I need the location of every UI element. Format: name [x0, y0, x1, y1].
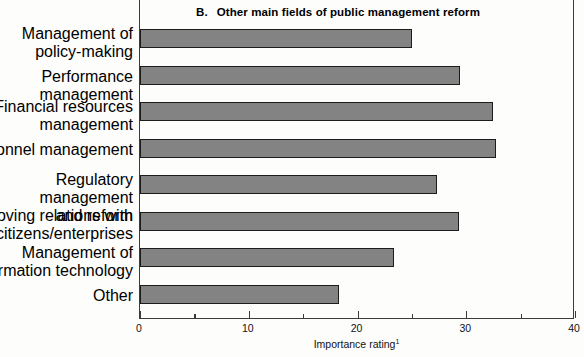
category-label-line: Management of	[0, 244, 133, 262]
bar[interactable]	[140, 285, 339, 304]
category-label-line: Other	[0, 287, 133, 305]
category-label-line: management	[0, 116, 133, 134]
x-tick-minor	[303, 314, 304, 318]
category-label-line: citizens/enterprises	[0, 225, 133, 243]
category-label-line: Management of	[0, 25, 133, 43]
category-label: Improving relations withcitizens/enterpr…	[0, 207, 133, 243]
x-tick-label: 40	[554, 322, 584, 334]
x-tick-label: 30	[445, 322, 485, 334]
category-label: Management ofpolicy-making	[0, 25, 133, 61]
bar[interactable]	[140, 175, 437, 194]
x-tick-major	[358, 311, 359, 318]
x-tick-major	[575, 311, 576, 318]
x-axis-label-footnote: 1	[395, 338, 399, 345]
x-tick-major	[249, 311, 250, 318]
category-label-line: Financial resources	[0, 98, 133, 116]
category-label-line: information technology	[0, 262, 133, 280]
x-tick-minor	[412, 314, 413, 318]
category-label-line: Personnel management	[0, 141, 133, 159]
plot-area	[139, 0, 574, 319]
x-tick-label: 10	[228, 322, 268, 334]
bar[interactable]	[140, 212, 459, 231]
category-label: Other	[0, 287, 133, 305]
bar[interactable]	[140, 66, 460, 85]
x-tick-major	[466, 311, 467, 318]
bar[interactable]	[140, 102, 493, 121]
category-label: Financial resourcesmanagement	[0, 98, 133, 134]
bar[interactable]	[140, 29, 412, 48]
category-label-line: policy-making	[0, 43, 133, 61]
x-tick-label: 0	[119, 322, 159, 334]
category-label-line: Improving relations with	[0, 207, 133, 225]
x-tick-major	[140, 311, 141, 318]
x-tick-minor	[521, 314, 522, 318]
bar[interactable]	[140, 248, 394, 267]
x-tick-minor	[194, 314, 195, 318]
x-tick-label: 20	[337, 322, 377, 334]
category-label: Management ofinformation technology	[0, 244, 133, 280]
category-label-line: Regulatory management	[0, 171, 133, 207]
chart-figure: B.Other main fields of public management…	[0, 0, 584, 357]
x-axis-label: Importance rating1	[139, 338, 574, 350]
category-label: Personnel management	[0, 141, 133, 159]
x-axis-label-text: Importance rating	[314, 338, 396, 350]
bar[interactable]	[140, 139, 496, 158]
